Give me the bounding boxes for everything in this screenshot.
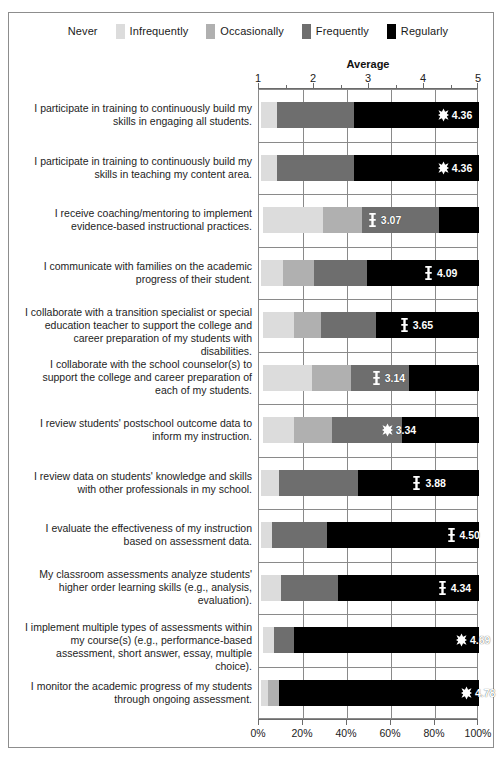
percent-tick-label: 100%: [465, 727, 492, 739]
bar-segment-frequently: [314, 260, 367, 286]
stacked-bar[interactable]: [259, 575, 479, 601]
bar-segment-regularly: [338, 575, 479, 601]
bar-segment-frequently: [351, 365, 408, 391]
bar-segment-frequently: [362, 207, 439, 233]
legend-swatch-icon: [54, 24, 63, 39]
stacked-bar[interactable]: [259, 260, 479, 286]
stacked-bar[interactable]: [259, 102, 479, 128]
bar-segment-occasionally: [312, 365, 352, 391]
bar-segment-infrequently: [263, 207, 322, 233]
bar-segment-occasionally: [294, 417, 331, 443]
bar-segment-occasionally: [323, 207, 363, 233]
row-category-label: I collaborate with the school counselor(…: [22, 358, 252, 397]
bar-segment-infrequently: [261, 470, 279, 496]
plot-area: 4.364.363.074.093.653.143.343.884.504.34…: [258, 89, 478, 719]
bar-segment-frequently: [272, 522, 327, 548]
row-category-label-line: each of my students.: [22, 384, 252, 397]
bar-segment-regularly: [367, 260, 479, 286]
row-category-label: I participate in training to continuousl…: [22, 155, 252, 181]
legend-item-regularly[interactable]: Regularly: [387, 24, 448, 39]
legend-swatch-icon: [116, 24, 125, 39]
percent-tick-label: 20%: [291, 727, 312, 739]
stacked-bar[interactable]: [259, 417, 479, 443]
row-category-label-line: I evaluate the effectiveness of my instr…: [22, 522, 252, 535]
row-category-label-line: higher order learning skills (e.g., anal…: [22, 581, 252, 594]
stacked-bar[interactable]: [259, 365, 479, 391]
row-category-label-line: progress of their student.: [22, 273, 252, 286]
stacked-bar[interactable]: [259, 207, 479, 233]
legend-item-occasionally[interactable]: Occasionally: [206, 24, 284, 39]
row-category-label-line: I review data on students' knowledge and…: [22, 470, 252, 483]
row-category-label: I evaluate the effectiveness of my instr…: [22, 522, 252, 548]
row-category-label-line: I receive coaching/mentoring to implemen…: [22, 207, 252, 220]
chart-row: 4.34: [259, 562, 477, 615]
legend-label: Occasionally: [220, 25, 284, 37]
row-category-label-line: I collaborate with a transition speciali…: [22, 306, 252, 319]
row-category-label-line: skills in teaching my content area.: [22, 168, 252, 181]
chart-row: 4.78: [259, 667, 477, 720]
percent-tick-label: 60%: [379, 727, 400, 739]
chart-row: 3.14: [259, 352, 477, 405]
stacked-bar[interactable]: [259, 470, 479, 496]
bar-segment-frequently: [277, 102, 354, 128]
stacked-bar[interactable]: [259, 155, 479, 181]
chart-row: 4.09: [259, 247, 477, 300]
bar-segment-frequently: [281, 575, 338, 601]
stacked-bar[interactable]: [259, 312, 479, 338]
row-category-label-line: education teacher to support the college…: [22, 319, 252, 332]
legend-label: Regularly: [401, 25, 448, 37]
row-category-label: My classroom assessments analyze student…: [22, 568, 252, 607]
bar-segment-infrequently: [261, 260, 283, 286]
legend-item-never[interactable]: Never: [54, 24, 98, 39]
bar-segment-infrequently: [263, 312, 294, 338]
row-category-label-line: I implement multiple types of assessment…: [22, 621, 252, 634]
row-category-label-line: evaluation).: [22, 594, 252, 607]
bar-segment-infrequently: [261, 575, 281, 601]
row-category-label-line: I participate in training to continuousl…: [22, 155, 252, 168]
percent-tick-label: 0%: [250, 727, 265, 739]
row-category-label-line: evidence-based instructional practices.: [22, 220, 252, 233]
bar-segment-regularly: [402, 417, 479, 443]
stacked-bar[interactable]: [259, 680, 479, 706]
bar-segment-regularly: [327, 522, 479, 548]
row-category-label-line: support the college and career preparati…: [22, 371, 252, 384]
bar-segment-regularly: [354, 102, 479, 128]
row-category-label-line: through ongoing assessment.: [22, 693, 252, 706]
chart-row: 4.36: [259, 142, 477, 195]
average-axis-title: Average: [258, 58, 478, 70]
row-category-label-line: skills in engaging all students.: [22, 115, 252, 128]
bar-segment-infrequently: [263, 627, 274, 653]
bar-segment-occasionally: [294, 312, 320, 338]
chart-row: 3.65: [259, 299, 477, 352]
percent-axis-line: [258, 719, 478, 720]
row-category-label-line: inform my instruction.: [22, 430, 252, 443]
percent-tick-mark: [477, 719, 478, 725]
percent-axis: 0%20%40%60%80%100%: [258, 719, 478, 747]
legend-label: Frequently: [316, 25, 369, 37]
bar-segment-regularly: [439, 207, 479, 233]
row-category-label: I receive coaching/mentoring to implemen…: [22, 207, 252, 233]
row-category-label-line: I collaborate with the school counselor(…: [22, 358, 252, 371]
percent-tick-label: 80%: [423, 727, 444, 739]
bar-segment-regularly: [279, 680, 479, 706]
percent-tick-mark: [346, 719, 347, 725]
chart-row: 3.88: [259, 457, 477, 510]
row-category-label-line: assessment, short answer, essay, multipl…: [22, 647, 252, 673]
percent-tick-mark: [390, 719, 391, 725]
legend-item-frequently[interactable]: Frequently: [302, 24, 369, 39]
legend-swatch-icon: [387, 24, 396, 39]
chart-legend: NeverInfrequentlyOccasionallyFrequentlyR…: [8, 20, 494, 42]
row-category-label-line: my course(s) (e.g., performance-based: [22, 634, 252, 647]
average-tick-label: 5: [475, 72, 481, 84]
row-category-label-line: based on assessment data.: [22, 535, 252, 548]
row-category-label-line: career preparation of my students with d…: [22, 332, 252, 358]
bar-segment-frequently: [332, 417, 402, 443]
legend-item-infrequently[interactable]: Infrequently: [116, 24, 189, 39]
row-category-label: I communicate with families on the acade…: [22, 260, 252, 286]
chart-figure: NeverInfrequentlyOccasionallyFrequentlyR…: [0, 0, 502, 758]
bar-segment-infrequently: [263, 365, 311, 391]
bar-segment-regularly: [376, 312, 479, 338]
stacked-bar[interactable]: [259, 627, 479, 653]
stacked-bar[interactable]: [259, 522, 479, 548]
chart-row: 4.69: [259, 614, 477, 667]
